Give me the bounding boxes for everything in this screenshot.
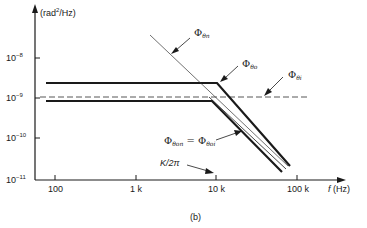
chart: (rad2/Hz) 10−8 10−9 10−10 10−11 100 1 k … [0,0,367,228]
ytick-label-1e-9: 10−9 [6,92,23,103]
arrow-phi-theta-o [220,66,238,82]
figure-caption: (b) [190,212,201,222]
ytick-label-1e-8: 10−8 [6,52,23,63]
series-phi-theta-oi [209,97,286,169]
y-axis-arrow-icon [32,4,38,13]
series-phi-theta-o [46,83,290,166]
xtick-label-100k: 100 k [287,184,309,194]
label-phi-theta-o: Φθo [242,58,257,70]
arrow-k-over-2pi [187,165,214,174]
arrow-phi-theta-on [216,130,242,140]
y-axis-label: (rad2/Hz) [40,7,76,18]
x-axis-label: f (Hz) [328,184,350,194]
x-axis-arrow-icon [337,177,346,183]
xtick-label-1k: 1 k [130,184,142,194]
ytick-label-1e-11: 10−11 [6,174,26,185]
label-phi-theta-n: Φθn [194,27,210,39]
xtick-label-100: 100 [48,184,63,194]
label-phi-theta-i: Φθi [288,69,302,81]
arrow-phi-theta-n [171,38,190,54]
label-phi-theta-on-eq-oi: Φθon = Φθoi [164,135,215,147]
arrow-phi-theta-i [264,77,283,96]
label-k-over-2pi: K/2π [160,158,180,168]
ytick-label-1e-10: 10−10 [6,132,26,143]
xtick-label-10k: 10 k [208,184,225,194]
